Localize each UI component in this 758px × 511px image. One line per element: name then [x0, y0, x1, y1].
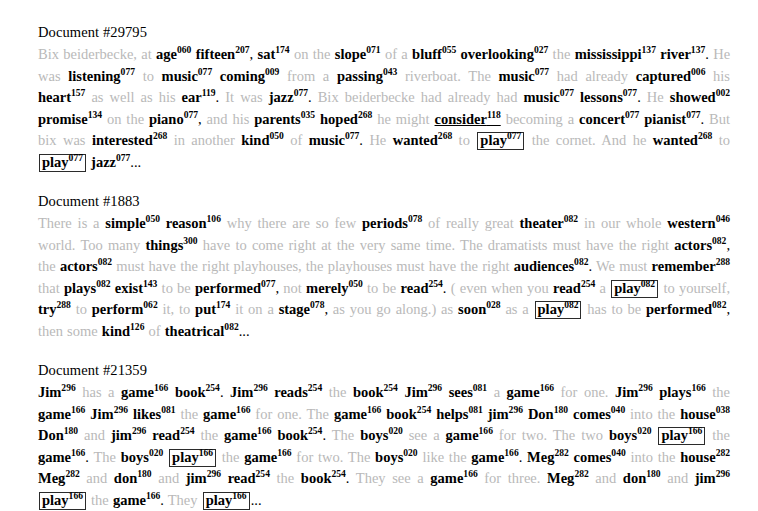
annotated-word[interactable]: parents035 [254, 111, 315, 127]
annotated-word[interactable]: heart157 [38, 89, 85, 105]
annotated-word[interactable]: Meg282 [38, 470, 80, 486]
annotated-word[interactable]: merely050 [306, 280, 363, 296]
annotated-word[interactable]: sees081 [449, 384, 488, 400]
annotated-word[interactable]: Jim296 [615, 384, 653, 400]
annotated-word[interactable]: boys020 [375, 449, 418, 465]
annotated-word[interactable]: listening077 [68, 68, 135, 84]
annotated-word[interactable]: audiences082 [514, 258, 589, 274]
annotated-word[interactable]: showed002 [670, 89, 730, 105]
annotated-word[interactable]: consider118 [435, 111, 501, 127]
annotated-word[interactable]: Don180 [38, 427, 78, 443]
annotated-word[interactable]: passing043 [337, 68, 397, 84]
annotated-word[interactable]: Jim296 [90, 406, 128, 422]
highlighted-word-box[interactable]: play082 [611, 280, 658, 298]
annotated-word[interactable]: pianist077 [644, 111, 700, 127]
annotated-word[interactable]: wanted268 [653, 132, 712, 148]
highlighted-word-box[interactable]: play082 [535, 301, 582, 319]
annotated-word[interactable]: lessons077 [580, 89, 637, 105]
highlighted-word-box[interactable]: play077 [477, 132, 524, 150]
annotated-word[interactable]: piano077 [149, 111, 198, 127]
annotated-word[interactable]: coming009 [220, 68, 279, 84]
highlighted-word-box[interactable]: play166 [39, 492, 86, 510]
highlighted-word-box[interactable]: play166 [658, 427, 705, 445]
annotated-word[interactable]: read254 [152, 427, 194, 443]
annotated-word[interactable]: music077 [523, 89, 574, 105]
annotated-word[interactable]: game166 [507, 384, 554, 400]
annotated-word[interactable]: perform062 [92, 301, 158, 317]
annotated-word[interactable]: jim296 [186, 470, 221, 486]
annotated-word[interactable]: read254 [401, 280, 443, 296]
annotated-word[interactable]: put174 [195, 301, 230, 317]
annotated-word[interactable]: jim296 [488, 406, 523, 422]
annotated-word[interactable]: performed082 [646, 301, 726, 317]
annotated-word[interactable]: game166 [244, 449, 291, 465]
annotated-word[interactable]: Jim296 [38, 384, 76, 400]
annotated-word[interactable]: game166 [38, 406, 85, 422]
annotated-word[interactable]: periods078 [362, 215, 422, 231]
annotated-word[interactable]: actors082 [674, 237, 726, 253]
annotated-word[interactable]: likes081 [133, 406, 176, 422]
annotated-word[interactable]: read254 [228, 470, 270, 486]
annotated-word[interactable]: Don180 [528, 406, 568, 422]
annotated-word[interactable]: don180 [623, 470, 661, 486]
annotated-word[interactable]: house282 [680, 449, 730, 465]
annotated-word[interactable]: game166 [38, 449, 85, 465]
annotated-word[interactable]: try288 [38, 301, 71, 317]
annotated-word[interactable]: overlooking027 [461, 46, 549, 62]
highlighted-word-box[interactable]: play166 [203, 492, 250, 510]
annotated-word[interactable]: remember288 [652, 258, 730, 274]
annotated-word[interactable]: simple050 [105, 215, 160, 231]
annotated-word[interactable]: game166 [121, 384, 168, 400]
annotated-word[interactable]: music077 [162, 68, 213, 84]
annotated-word[interactable]: western046 [667, 215, 730, 231]
annotated-word[interactable]: bluff055 [412, 46, 456, 62]
annotated-word[interactable]: book254 [386, 406, 431, 422]
annotated-word[interactable]: exist143 [115, 280, 158, 296]
annotated-word[interactable]: don180 [114, 470, 152, 486]
annotated-word[interactable]: mississippi137 [575, 46, 656, 62]
annotated-word[interactable]: age060 [156, 46, 191, 62]
annotated-word[interactable]: sat174 [257, 46, 289, 62]
annotated-word[interactable]: Jim296 [230, 384, 268, 400]
annotated-word[interactable]: comes040 [574, 449, 626, 465]
annotated-word[interactable]: ear119 [182, 89, 216, 105]
annotated-word[interactable]: fifteen207 [196, 46, 250, 62]
annotated-word[interactable]: reads254 [274, 384, 322, 400]
annotated-word[interactable]: hoped268 [320, 111, 372, 127]
annotated-word[interactable]: boys020 [360, 427, 403, 443]
annotated-word[interactable]: actors082 [60, 258, 112, 274]
annotated-word[interactable]: boys020 [609, 427, 652, 443]
annotated-word[interactable]: game166 [471, 449, 518, 465]
annotated-word[interactable]: boys020 [121, 449, 164, 465]
annotated-word[interactable]: book254 [175, 384, 220, 400]
annotated-word[interactable]: soon028 [458, 301, 501, 317]
annotated-word[interactable]: Meg282 [547, 470, 589, 486]
annotated-word[interactable]: music077 [499, 68, 550, 84]
annotated-word[interactable]: things300 [145, 237, 197, 253]
annotated-word[interactable]: captured006 [636, 68, 706, 84]
annotated-word[interactable]: game166 [334, 406, 381, 422]
annotated-word[interactable]: read254 [553, 280, 595, 296]
annotated-word[interactable]: music077 [309, 132, 360, 148]
annotated-word[interactable]: plays082 [64, 280, 111, 296]
annotated-word[interactable]: kind050 [241, 132, 284, 148]
highlighted-word-box[interactable]: play077 [39, 154, 86, 172]
annotated-word[interactable]: reason106 [166, 215, 221, 231]
annotated-word[interactable]: jim296 [695, 470, 730, 486]
annotated-word[interactable]: performed077 [195, 280, 275, 296]
annotated-word[interactable]: jazz077 [269, 89, 308, 105]
annotated-word[interactable]: jazz077 [91, 154, 130, 170]
annotated-word[interactable]: wanted268 [393, 132, 452, 148]
highlighted-word-box[interactable]: play166 [169, 449, 216, 467]
annotated-word[interactable]: house038 [680, 406, 730, 422]
annotated-word[interactable]: promise134 [38, 111, 102, 127]
annotated-word[interactable]: theatrical082 [165, 323, 239, 339]
annotated-word[interactable]: jim296 [111, 427, 146, 443]
annotated-word[interactable]: game166 [203, 406, 250, 422]
annotated-word[interactable]: stage078 [279, 301, 325, 317]
annotated-word[interactable]: Meg282 [527, 449, 569, 465]
annotated-word[interactable]: theater082 [519, 215, 578, 231]
annotated-word[interactable]: game166 [224, 427, 271, 443]
annotated-word[interactable]: book254 [277, 427, 322, 443]
annotated-word[interactable]: game166 [446, 427, 493, 443]
